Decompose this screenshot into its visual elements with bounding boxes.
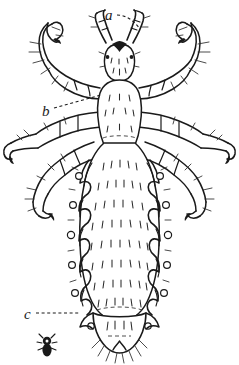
label-c-text: c xyxy=(24,306,31,322)
right-eye xyxy=(130,55,134,59)
louse-illustration-figure: a b c xyxy=(0,0,239,365)
spiracle-left-5 xyxy=(72,290,79,297)
label-b-text: b xyxy=(42,103,50,119)
spiracle-left-3 xyxy=(67,231,74,238)
spiracle-left-2 xyxy=(70,202,77,209)
abdomen xyxy=(80,143,160,322)
spiracle-left-1 xyxy=(76,173,83,180)
spiracle-right-3 xyxy=(164,231,171,238)
spiracle-right-1 xyxy=(157,173,164,180)
label-a-text: a xyxy=(105,7,113,23)
louse-drawing-svg: a b c xyxy=(0,0,239,365)
spiracle-right-2 xyxy=(163,202,170,209)
spiracle-right-4 xyxy=(164,262,171,269)
spiracle-left-4 xyxy=(69,262,76,269)
left-eye xyxy=(106,55,110,59)
spiracle-right-5 xyxy=(161,290,168,297)
thorax xyxy=(98,80,142,145)
